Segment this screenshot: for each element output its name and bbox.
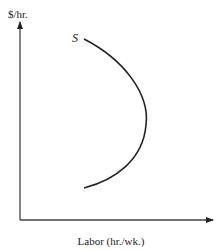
curve-label-s: S	[72, 31, 78, 46]
labor-supply-chart: $/hr. S Labor (hr./wk.)	[0, 0, 222, 250]
chart-canvas	[0, 0, 222, 250]
x-axis-label: Labor (hr./wk.)	[0, 235, 222, 247]
supply-curve-s	[84, 39, 146, 188]
y-axis-label: $/hr.	[8, 8, 28, 20]
